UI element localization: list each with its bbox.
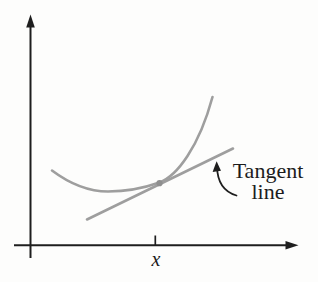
annotation-arrowhead-icon: [213, 161, 221, 172]
y-axis-arrowhead-icon: [26, 15, 35, 28]
tangent-line-label-line2: line: [229, 181, 307, 202]
diagram-canvas: [0, 0, 318, 282]
x-axis-arrowhead-icon: [286, 241, 299, 250]
curve: [52, 97, 213, 192]
tangent-line-figure: Tangent line x: [0, 0, 318, 282]
tangent-line-label: Tangent line: [229, 160, 307, 202]
x-axis-point-label: x: [146, 248, 166, 271]
tangency-point-dot: [156, 180, 162, 186]
tangent-line-label-line1: Tangent: [229, 160, 307, 181]
